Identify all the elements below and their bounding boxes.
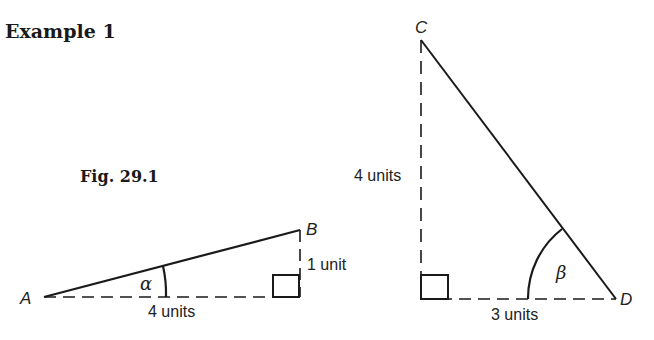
horizontal-length-label: 3 units: [491, 306, 538, 323]
adjacent-length-label: 4 units: [148, 303, 195, 320]
vertex-c-label: C: [415, 18, 428, 37]
right-angle-marker: [273, 275, 299, 297]
hypotenuse-cd: [421, 40, 616, 299]
triangle-abc: A B α 4 units 1 unit: [19, 220, 347, 320]
opposite-length-label: 1 unit: [307, 256, 347, 273]
angle-beta-label: β: [555, 262, 566, 283]
vertical-length-label: 4 units: [354, 167, 401, 184]
angle-alpha-label: α: [140, 273, 152, 294]
hypotenuse-ab: [44, 230, 300, 297]
vertex-d-label: D: [620, 290, 632, 309]
vertex-b-label: B: [306, 220, 317, 239]
vertex-a-label: A: [19, 289, 31, 308]
right-angle-marker: [421, 275, 448, 299]
triangles-diagram: A B α 4 units 1 unit C D β 3 units 4 uni…: [0, 0, 654, 340]
angle-alpha-arc: [163, 266, 166, 297]
triangle-cd: C D β 3 units 4 units: [354, 18, 632, 323]
